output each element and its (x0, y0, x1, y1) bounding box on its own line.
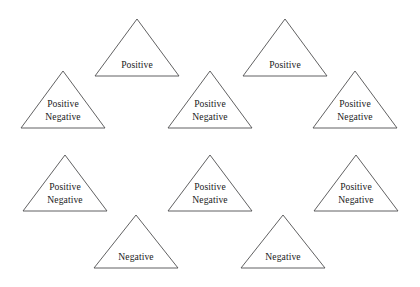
triangle-shape[interactable] (243, 19, 327, 76)
triangle-shape[interactable] (314, 155, 398, 211)
triangle-lattice-svg (0, 0, 420, 287)
triangle-shape[interactable] (94, 215, 178, 268)
triangle-shape[interactable] (168, 155, 252, 211)
triangle-shape[interactable] (95, 19, 179, 76)
triangle-shape[interactable] (21, 71, 105, 128)
triangle-shape[interactable] (23, 155, 107, 211)
triangle-shape[interactable] (241, 215, 325, 268)
triangle-shape[interactable] (168, 71, 252, 128)
triangle-shape[interactable] (313, 71, 397, 128)
diagram-canvas: PositivePositivePositiveNegativePositive… (0, 0, 420, 287)
